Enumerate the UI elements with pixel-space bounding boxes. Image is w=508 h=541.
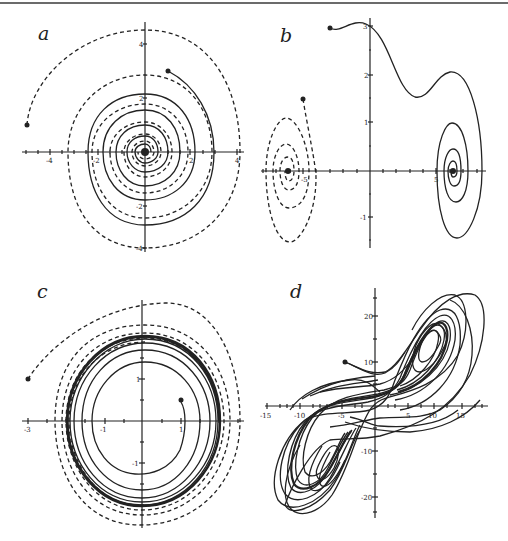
focus-left-b: [285, 168, 291, 174]
svg-text:1: 1: [364, 119, 368, 127]
svg-text:-2: -2: [93, 157, 100, 165]
start-point-solid-b: [328, 26, 333, 31]
svg-text:1: 1: [179, 426, 183, 434]
svg-text:-20: -20: [361, 494, 372, 502]
svg-text:-15: -15: [260, 412, 271, 420]
svg-text:-5: -5: [301, 176, 308, 184]
panel-a: a -4 -2 2 4 4 2 -2 -4: [22, 22, 244, 253]
svg-text:5: 5: [406, 412, 410, 420]
svg-text:20: 20: [364, 313, 373, 321]
trajectory-solid-b: [330, 23, 482, 238]
start-point-solid-a: [166, 69, 171, 74]
focus-right-b: [450, 168, 456, 174]
figure-canvas: a -4 -2 2 4 4 2 -2 -4 b: [0, 0, 508, 541]
svg-text:-2: -2: [136, 203, 143, 211]
start-point-dashed-c: [26, 377, 31, 382]
svg-text:-3: -3: [24, 426, 31, 434]
svg-text:-4: -4: [46, 157, 53, 165]
trajectory-solid-a: [88, 71, 214, 225]
svg-text:2: 2: [364, 72, 368, 80]
svg-text:-1: -1: [360, 214, 367, 222]
focus-a: [141, 148, 149, 156]
svg-text:-1: -1: [132, 460, 139, 468]
start-point-d: [343, 360, 348, 365]
ticks-a: [26, 44, 237, 248]
panel-c: c -3 -1 1 1 -1: [22, 280, 244, 528]
svg-text:-10: -10: [361, 448, 372, 456]
svg-text:2: 2: [139, 95, 143, 103]
svg-text:-1: -1: [100, 426, 107, 434]
svg-text:4: 4: [139, 41, 144, 49]
svg-text:10: 10: [364, 359, 373, 367]
panel-b: b -5 5 3 2 1 -1: [261, 18, 486, 248]
panel-label-b: b: [280, 24, 292, 46]
svg-text:-4: -4: [136, 245, 143, 253]
panel-d: d -15 -10 -5 5 10 15 20 10 -10 -20: [260, 280, 488, 518]
panel-label-c: c: [37, 280, 48, 302]
attractor-d: [274, 294, 484, 514]
start-point-dashed-a: [25, 123, 30, 128]
start-point-solid-c: [179, 398, 184, 403]
panel-label-a: a: [38, 22, 49, 44]
svg-text:-10: -10: [294, 412, 305, 420]
start-point-dashed-b: [301, 97, 306, 102]
panel-label-d: d: [290, 280, 302, 302]
svg-text:1: 1: [136, 376, 140, 384]
svg-text:2: 2: [189, 157, 193, 165]
